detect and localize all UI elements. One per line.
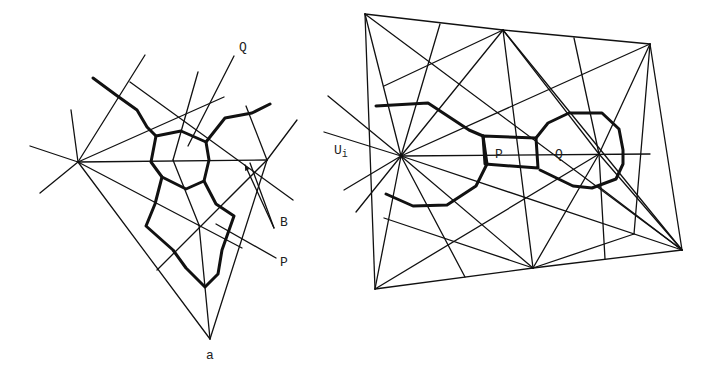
triangulation-edge	[503, 30, 682, 250]
triangulation-edge	[356, 156, 401, 212]
triangulation-edge	[533, 250, 682, 268]
left-label-b: B	[280, 215, 288, 230]
left-diagram-arrow	[245, 165, 274, 228]
construction-line	[71, 110, 78, 162]
left-label-a: a	[206, 348, 214, 363]
triangulation-edge	[344, 156, 401, 190]
right-label-ui: Ui	[334, 143, 348, 160]
left-label-q: Q	[239, 40, 247, 55]
construction-line	[267, 120, 297, 160]
boundary-path	[483, 136, 538, 168]
triangulation-edge	[384, 218, 533, 268]
right-label-p: P	[495, 147, 503, 162]
triangulation-edge	[599, 154, 605, 259]
triangulation-edge	[375, 268, 533, 289]
construction-line	[30, 146, 78, 162]
right-diagram-triangulation	[324, 14, 682, 289]
boundary-path	[206, 104, 270, 142]
triangulation-edge	[384, 30, 503, 86]
left-diagram-thin-lines	[30, 55, 297, 339]
left-label-p: P	[280, 255, 288, 270]
triangulation-edge	[401, 154, 650, 156]
triangulation-edge	[574, 38, 599, 154]
construction-line	[250, 163, 274, 228]
construction-line	[188, 56, 234, 146]
triangulation-edge	[365, 14, 682, 250]
triangulation-edge	[401, 156, 533, 268]
triangulation-edge	[533, 234, 634, 268]
right-label-q: Q	[555, 147, 563, 162]
triangulation-edge	[365, 14, 401, 156]
triangulation-edge	[401, 24, 440, 156]
boundary-path	[386, 136, 487, 206]
pointer-arrow	[245, 165, 274, 228]
triangulation-edge	[503, 30, 533, 268]
construction-line	[40, 162, 78, 193]
triangulation-edge	[503, 30, 650, 44]
construction-line	[173, 160, 199, 225]
triangulation-edge	[375, 154, 599, 289]
triangulation-edge	[365, 14, 503, 30]
triangulation-edge	[365, 14, 375, 289]
triangulation-edge	[598, 186, 682, 250]
geometry-figure: QBPa UiPQ	[0, 0, 715, 370]
